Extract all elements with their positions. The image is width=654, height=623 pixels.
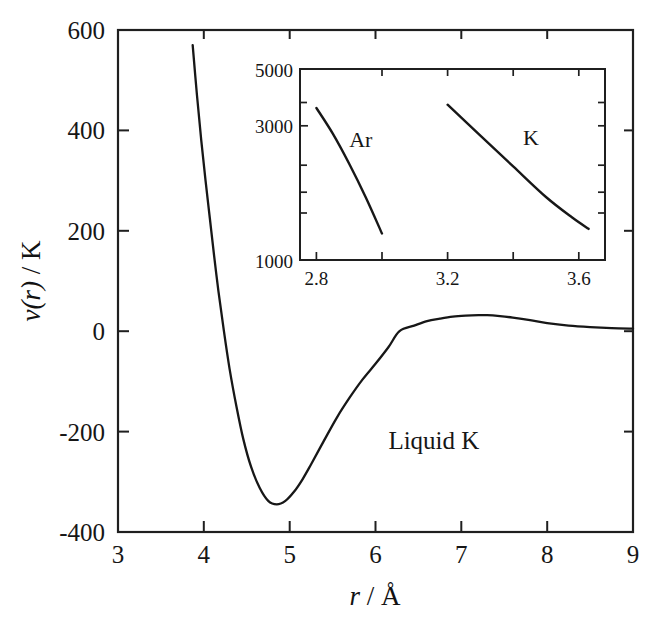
y-axis-title: v(r) / K (16, 240, 46, 322)
inset-x-tick-label-2: 3.6 (567, 268, 591, 289)
main-y-tick-label-3: 0 (93, 318, 106, 345)
inset-label-k: K (523, 125, 539, 150)
x-axis-title-sep: / (360, 581, 381, 611)
inset-y-tick-label-0: 5000 (255, 60, 293, 81)
y-axis-title-sep: / (16, 260, 46, 281)
inset-x-tick-label-0: 2.8 (305, 268, 329, 289)
x-axis-title-var: r (349, 581, 360, 611)
inset-label-ar: Ar (349, 127, 373, 152)
inset-x-tick-label-1: 3.2 (436, 268, 460, 289)
y-axis-title-unit: K (16, 240, 46, 260)
svg-text:r / Å: r / Å (349, 581, 401, 611)
main-x-ticks-top (204, 30, 547, 39)
x-axis-title-unit: Å (381, 581, 401, 611)
main-x-ticks (118, 521, 633, 532)
figure-pair-potential: 600 400 200 0 -200 -400 3 4 5 6 7 8 9 r … (0, 0, 654, 623)
main-y-tick-label-0: 600 (68, 17, 106, 44)
inset-y-tick-label-1: 3000 (255, 116, 293, 137)
main-y-tick-label-2: 200 (68, 218, 106, 245)
main-annotation-liquid-k: Liquid K (388, 427, 479, 454)
main-x-tick-label-1: 4 (198, 541, 211, 568)
chart-svg: 600 400 200 0 -200 -400 3 4 5 6 7 8 9 r … (0, 0, 654, 623)
main-y-ticks (118, 30, 129, 532)
inset-y-tick-label-2: 1000 (255, 251, 293, 272)
main-x-tick-label-4: 7 (455, 541, 468, 568)
main-x-tick-label-2: 5 (283, 541, 296, 568)
y-axis-title-arg: (r) (16, 281, 46, 310)
main-y-ticks-right (624, 130, 633, 431)
main-y-tick-label-1: 400 (68, 117, 106, 144)
main-x-tick-label-5: 8 (541, 541, 554, 568)
svg-text:v(r) / K: v(r) / K (16, 240, 46, 322)
main-x-tick-label-3: 6 (369, 541, 382, 568)
y-axis-title-var: v (16, 310, 46, 322)
inset-background (286, 58, 616, 263)
main-x-tick-label-0: 3 (112, 541, 125, 568)
main-x-tick-label-6: 9 (627, 541, 640, 568)
main-y-tick-label-4: -200 (59, 419, 105, 446)
x-axis-title: r / Å (349, 581, 401, 611)
main-y-tick-label-5: -400 (59, 519, 105, 546)
